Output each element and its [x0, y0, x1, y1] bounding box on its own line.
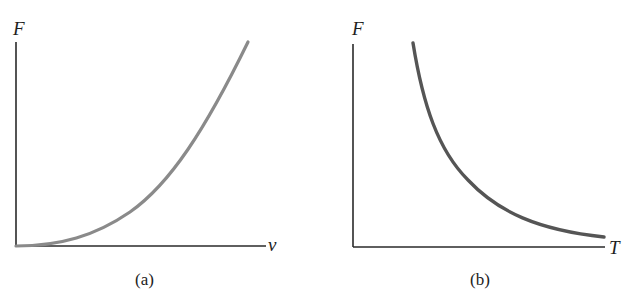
x-axis-label-a: v — [268, 235, 276, 254]
curve-a — [16, 42, 248, 246]
y-axis-label-b: F — [352, 19, 364, 38]
y-axis-label-a: F — [13, 19, 25, 38]
panel-a: F v (a) — [0, 0, 318, 295]
graph-b — [318, 0, 637, 295]
caption-b: (b) — [470, 271, 490, 288]
panel-b: F T (b) — [318, 0, 637, 295]
caption-a: (a) — [135, 271, 154, 288]
x-axis-label-b: T — [609, 238, 620, 257]
curve-b — [413, 43, 604, 237]
